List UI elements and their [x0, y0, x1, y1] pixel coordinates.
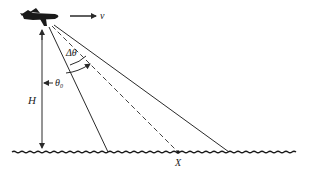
ground-point-marker [176, 150, 180, 154]
far-beam-edge [54, 25, 229, 152]
ground-point-label: X [174, 157, 182, 168]
beam-width-label: Δθ [65, 47, 77, 58]
radar-geometry-diagram: v H Δθ θ0 X [0, 0, 313, 174]
velocity-label: v [100, 10, 105, 21]
height-label: H [27, 94, 37, 106]
aircraft-icon [20, 8, 59, 26]
beam-center [52, 26, 178, 152]
look-angle-label: θ0 [55, 77, 63, 89]
near-beam-edge [49, 27, 108, 152]
ground-surface [12, 151, 296, 153]
